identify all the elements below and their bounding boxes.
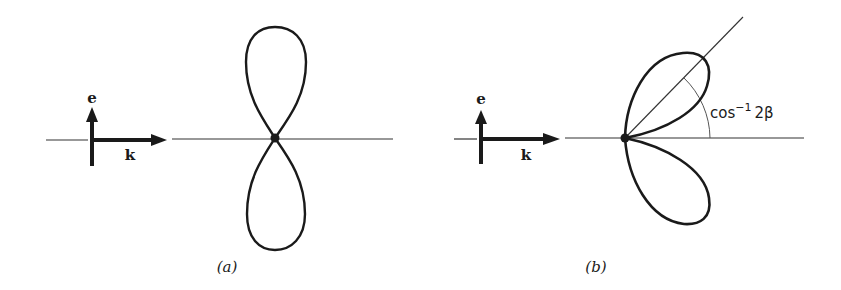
caption-a: (a) bbox=[217, 258, 238, 276]
dipole-lobe-lower bbox=[247, 138, 305, 250]
panel-b: e k cos−12β (b) bbox=[454, 17, 804, 276]
origin-dot bbox=[271, 134, 280, 143]
angle-label: cos−12β bbox=[710, 101, 774, 122]
k-label: k bbox=[521, 146, 532, 164]
e-label: e bbox=[87, 89, 97, 107]
figure-canvas: e k (a) e k cos−12β (b) bbox=[0, 0, 841, 290]
e-vector-arrow bbox=[86, 107, 98, 166]
dipole-lobe-upper bbox=[246, 27, 306, 138]
e-label: e bbox=[476, 90, 486, 108]
k-vector-arrow bbox=[481, 133, 560, 145]
origin-dot bbox=[621, 134, 630, 143]
lobe-lower bbox=[625, 138, 709, 224]
k-label: k bbox=[125, 146, 136, 164]
k-vector-arrow bbox=[92, 134, 167, 146]
panel-a: e k (a) bbox=[46, 27, 393, 276]
caption-b: (b) bbox=[585, 258, 606, 276]
